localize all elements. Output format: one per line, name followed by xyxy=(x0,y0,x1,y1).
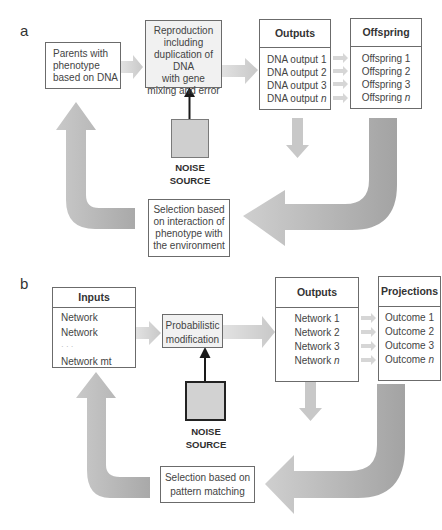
selection-b-line-1: Selection based on xyxy=(161,471,254,485)
selection-box-b: Selection based on pattern matching xyxy=(160,466,255,503)
arrow-outputs-down xyxy=(286,118,309,158)
arrow-selection-to-inputs xyxy=(76,372,150,498)
parents-line-3: based on DNA xyxy=(53,72,120,84)
reproduction-box: Reproduction including duplication of DN… xyxy=(145,20,222,88)
noise-source-square-b xyxy=(185,381,226,421)
parents-line-2: phenotype xyxy=(53,60,120,72)
noise-source-square-a xyxy=(171,119,209,158)
arrow-noise-to-probabilistic xyxy=(200,347,211,381)
inputs-row-2: Network xyxy=(61,326,135,341)
outputs-row-b-2: Network 2 xyxy=(276,326,358,340)
selection-box-a: Selection based on interaction of phenot… xyxy=(148,199,230,257)
arrow-reproduction-to-outputs xyxy=(221,58,258,84)
arrow-parents-to-reproduction xyxy=(121,55,143,79)
offspring-header: Offspring xyxy=(351,19,421,47)
probabilistic-line-1: Probabilistic xyxy=(163,319,222,333)
offspring-row-4: Offspring n xyxy=(351,91,421,104)
projections-body: Outcome 1 Outcome 2 Outcome 3 Outcome n xyxy=(379,307,440,367)
inputs-row-4: Network mt xyxy=(61,355,135,370)
reproduction-line-5: mixing and error xyxy=(146,85,221,97)
inputs-body: Network Network · · · Network mt xyxy=(53,308,135,369)
offspring-table: Offspring Offspring 1 Offspring 2 Offspr… xyxy=(350,18,422,109)
projections-table: Projections Outcome 1 Outcome 2 Outcome … xyxy=(378,276,441,381)
outputs-row-b-3: Network 3 xyxy=(276,340,358,354)
probabilistic-line-2: modification xyxy=(163,333,222,347)
panel-a-label: a xyxy=(20,22,28,39)
selection-a-line-4: the environment xyxy=(149,240,229,252)
inputs-row-1: Network xyxy=(61,311,135,326)
inputs-table: Inputs Network Network · · · Network mt xyxy=(52,287,136,368)
outputs-row-b-1: Network 1 xyxy=(276,312,358,326)
selection-a-line-2: on interaction of xyxy=(149,216,229,228)
noise-source-label-a: NOISE SOURCE xyxy=(160,161,220,187)
inputs-row-ellipsis: · · · xyxy=(61,340,135,355)
reproduction-line-2: including xyxy=(146,37,221,49)
arrows-outputs-to-offspring xyxy=(333,53,348,103)
outputs-row-a-4: DNA output n xyxy=(267,92,330,105)
probabilistic-box: Probabilistic modification xyxy=(162,314,223,348)
outputs-body-a: DNA output 1 DNA output 2 DNA output 3 D… xyxy=(260,48,330,105)
arrow-offspring-to-selection xyxy=(243,118,397,246)
offspring-row-2: Offspring 2 xyxy=(351,65,421,78)
offspring-row-3: Offspring 3 xyxy=(351,78,421,91)
outputs-row-a-3: DNA output 3 xyxy=(267,79,330,92)
projections-header: Projections xyxy=(379,277,440,307)
panel-b-label: b xyxy=(20,275,28,292)
outputs-header-b: Outputs xyxy=(276,278,358,308)
arrow-inputs-to-probabilistic xyxy=(136,321,161,345)
outputs-row-a-1: DNA output 1 xyxy=(267,53,330,66)
arrow-selection-to-parents xyxy=(56,102,135,229)
arrow-probabilistic-to-outputs xyxy=(223,316,275,348)
parents-line-1: Parents with xyxy=(53,48,120,60)
projections-row-3: Outcome 3 xyxy=(379,339,440,353)
selection-a-line-1: Selection based xyxy=(149,204,229,216)
selection-b-line-2: pattern matching xyxy=(161,485,254,499)
reproduction-line-4: with gene xyxy=(146,73,221,85)
outputs-table-a: Outputs DNA output 1 DNA output 2 DNA ou… xyxy=(259,19,331,110)
noise-source-label-b: NOISE SOURCE xyxy=(176,425,236,451)
outputs-body-b: Network 1 Network 2 Network 3 Network n xyxy=(276,308,358,368)
outputs-row-b-4: Network n xyxy=(276,354,358,368)
outputs-row-a-2: DNA output 2 xyxy=(267,66,330,79)
offspring-row-1: Offspring 1 xyxy=(351,52,421,65)
arrow-projections-to-selection xyxy=(265,384,405,514)
offspring-body: Offspring 1 Offspring 2 Offspring 3 Offs… xyxy=(351,47,421,104)
parents-box: Parents with phenotype based on DNA xyxy=(45,42,121,89)
outputs-table-b: Outputs Network 1 Network 2 Network 3 Ne… xyxy=(275,277,359,382)
projections-row-4: Outcome n xyxy=(379,353,440,367)
arrow-outputs-down-b xyxy=(299,382,322,421)
reproduction-line-3: duplication of DNA xyxy=(146,49,221,73)
inputs-header: Inputs xyxy=(53,288,135,308)
projections-row-2: Outcome 2 xyxy=(379,325,440,339)
projections-row-1: Outcome 1 xyxy=(379,311,440,325)
outputs-header-a: Outputs xyxy=(260,20,330,48)
selection-a-line-3: phenotype with xyxy=(149,228,229,240)
arrows-outputs-to-projections xyxy=(361,313,376,365)
reproduction-line-1: Reproduction xyxy=(146,25,221,37)
